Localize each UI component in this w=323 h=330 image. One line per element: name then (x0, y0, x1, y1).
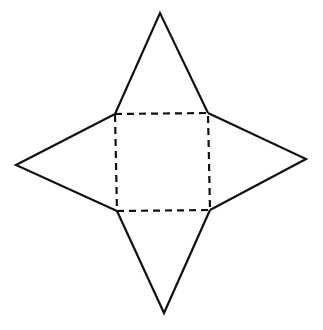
left-triangle-face (16, 114, 117, 211)
top-triangle-face (115, 13, 208, 114)
square-base-fold-lines (115, 113, 210, 211)
right-triangle-face (208, 113, 306, 210)
pyramid-net-diagram (0, 0, 323, 330)
bottom-triangle-face (117, 210, 210, 313)
